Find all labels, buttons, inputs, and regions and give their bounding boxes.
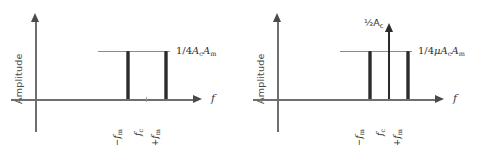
spectral-line-lower-sideband — [126, 51, 130, 99]
sideband-amplitude-Ac-sub: c — [199, 50, 203, 58]
tick2-term-sub: m — [154, 129, 162, 135]
sideband-amplitude-prefix: 1/4 — [176, 45, 192, 56]
y-axis-title: Amplitude — [255, 54, 266, 104]
tick0-term: f — [111, 135, 122, 139]
tick1-base: f — [132, 132, 143, 136]
tick-label-carrier: fc — [132, 129, 143, 136]
tick-mark-carrier — [146, 97, 147, 102]
y-axis-arrow-icon — [31, 13, 39, 22]
y-axis-line — [35, 20, 37, 132]
tick2-op: + — [391, 139, 402, 145]
tick-label-upper-sideband: fc+fm — [149, 129, 160, 145]
tick0-op: − — [111, 139, 122, 145]
tick0-term: f — [353, 135, 364, 139]
spectral-line-upper-sideband — [406, 51, 410, 99]
tick-label-lower-sideband: fc−fm — [353, 129, 364, 145]
carrier-amplitude-term: A — [373, 17, 380, 28]
amplitude-level-line — [98, 51, 170, 52]
sideband-amplitude-Am-sub: m — [459, 50, 465, 58]
sideband-amplitude-Am-sub: m — [210, 50, 216, 58]
sideband-amplitude-Ac: A — [441, 45, 448, 56]
spectral-line-carrier — [388, 30, 390, 99]
tick-label-carrier: fc — [374, 129, 385, 136]
tick-label-lower-sideband: fc−fm — [111, 129, 122, 145]
spectral-line-lower-sideband — [368, 51, 372, 99]
y-axis-title: Amplitude — [13, 54, 24, 104]
tick1-base: f — [374, 132, 385, 136]
x-axis-variable-label: f — [211, 92, 215, 105]
tick2-term: f — [391, 135, 402, 139]
x-axis-arrow-icon — [435, 95, 444, 103]
tick0-term-sub: m — [116, 129, 124, 135]
panel-dsb-sc-spectrum: Amplitude f 1/4AcAm fc−fm fc fc+fm — [0, 0, 242, 145]
carrier-amplitude-sub: c — [380, 22, 384, 30]
x-axis-line — [253, 99, 436, 101]
x-axis-arrow-icon — [193, 95, 202, 103]
amplitude-level-line — [340, 51, 412, 52]
carrier-amplitude-frac: ½ — [364, 17, 373, 28]
tick2-term: f — [149, 135, 160, 139]
spectrum-figure: Amplitude f 1/4AcAm fc−fm fc fc+fm — [0, 0, 483, 145]
tick-label-upper-sideband: fc+fm — [391, 129, 402, 145]
sideband-amplitude-Ac-sub: c — [448, 50, 452, 58]
x-axis-line — [11, 99, 194, 101]
sideband-amplitude-label: 1/4μAcAm — [418, 45, 465, 56]
sideband-amplitude-prefix: 1/4 — [418, 45, 434, 56]
sideband-amplitude-label: 1/4AcAm — [176, 45, 216, 56]
tick1-sub: c — [379, 129, 387, 133]
panel-am-spectrum: Amplitude f 1/4μAcAm ½Ac fc−fm fc fc+fm — [242, 0, 483, 145]
carrier-amplitude-label: ½Ac — [364, 17, 383, 28]
tick2-term-sub: m — [396, 129, 404, 135]
tick2-op: + — [149, 139, 160, 145]
x-axis-variable-label: f — [453, 92, 457, 105]
carrier-arrow-icon — [385, 23, 393, 32]
tick0-op: − — [353, 139, 364, 145]
sideband-amplitude-Am: A — [451, 45, 458, 56]
y-axis-arrow-icon — [273, 13, 281, 22]
spectral-line-upper-sideband — [164, 51, 168, 99]
tick0-term-sub: m — [358, 129, 366, 135]
y-axis-line — [277, 20, 279, 132]
tick1-sub: c — [137, 129, 145, 133]
